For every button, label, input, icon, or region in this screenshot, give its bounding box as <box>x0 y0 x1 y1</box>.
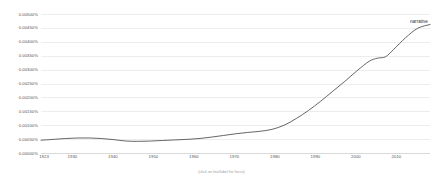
y-axis-tick-label: 0.00250% <box>2 81 38 86</box>
x-axis-tick-label: 1980 <box>270 154 280 160</box>
x-axis-tick-label: 2000 <box>351 154 361 160</box>
y-axis-tick-label: 0.00200% <box>2 95 38 100</box>
x-axis-tick-label: 1923 <box>39 154 49 160</box>
y-axis-tick-labels: 0.00500% 0.00450% 0.00400% 0.00350% 0.00… <box>0 14 38 153</box>
y-axis-tick-label: 0.00100% <box>2 123 38 128</box>
legend-label-narrative[interactable]: narrative <box>410 19 428 25</box>
x-axis-tick-label: 1950 <box>149 154 159 160</box>
x-axis-tick-label: 2010 <box>392 154 402 160</box>
x-axis-tick-label: 1960 <box>189 154 199 160</box>
chart-caption: (click on line/label for focus) <box>0 170 443 175</box>
y-axis-tick-label: 0.00000% <box>2 151 38 156</box>
y-axis-tick-label: 0.00500% <box>2 12 38 17</box>
y-axis-tick-label: 0.00300% <box>2 67 38 72</box>
x-axis-tick-label: 1940 <box>108 154 118 160</box>
plot-area <box>41 14 430 153</box>
series-narrative[interactable] <box>41 14 430 153</box>
y-axis-tick-label: 0.00150% <box>2 109 38 114</box>
x-axis-tick-label: 1990 <box>311 154 321 160</box>
x-axis-tick-labels: 1923 1930 1940 1950 1960 1970 1980 1990 … <box>41 154 430 164</box>
y-axis-tick-label: 0.00450% <box>2 25 38 30</box>
ngram-chart: 0.00500% 0.00450% 0.00400% 0.00350% 0.00… <box>0 0 443 185</box>
y-axis-tick-label: 0.00050% <box>2 137 38 142</box>
y-axis-tick-label: 0.00400% <box>2 39 38 44</box>
x-axis-tick-label: 1930 <box>68 154 78 160</box>
series-line[interactable] <box>41 25 430 142</box>
x-axis-tick-label: 1970 <box>230 154 240 160</box>
y-axis-tick-label: 0.00350% <box>2 53 38 58</box>
